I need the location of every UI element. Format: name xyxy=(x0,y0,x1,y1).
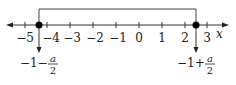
left-expr-denominator: 2 xyxy=(50,65,56,76)
right-down-arrow-icon xyxy=(194,47,199,53)
tick-label: −5 xyxy=(16,31,34,45)
axis-left-arrow-icon xyxy=(6,23,13,28)
left-expr-prefix: −1− xyxy=(20,56,48,70)
tick-label: 1 xyxy=(158,31,166,45)
right-expr-denominator: 2 xyxy=(207,65,213,76)
axis-variable-label: x xyxy=(216,27,223,41)
axis-right-arrow-icon xyxy=(222,23,229,28)
left-root-expression: −1− a 2 xyxy=(20,53,58,76)
left-down-arrow-icon xyxy=(37,47,42,53)
tick-label: −1 xyxy=(109,31,127,45)
tick-label: 2 xyxy=(181,31,189,45)
tick-labels: −5 −4 −3 −2 −1 0 1 2 3 xyxy=(16,31,211,45)
left-expr-numerator: a xyxy=(50,53,56,64)
number-line-diagram: −5 −4 −3 −2 −1 0 1 2 3 x −1− a 2 −1+ a 2 xyxy=(0,0,236,85)
interval-bracket xyxy=(39,9,196,25)
tick-label: 0 xyxy=(135,31,143,45)
right-expr-numerator: a xyxy=(207,53,213,64)
right-root-expression: −1+ a 2 xyxy=(177,53,215,76)
right-expr-prefix: −1+ xyxy=(177,56,205,70)
left-root-dot xyxy=(36,22,43,29)
tick-label: −2 xyxy=(86,31,104,45)
tick-label: −3 xyxy=(63,31,81,45)
tick-label: −4 xyxy=(42,31,60,45)
right-root-dot xyxy=(193,22,200,29)
tick-label: 3 xyxy=(203,31,211,45)
